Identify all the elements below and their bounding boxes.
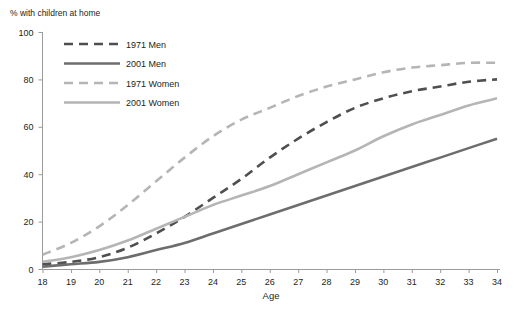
legend-label: 1971 Men bbox=[126, 40, 166, 50]
y-tick-label: 0 bbox=[28, 265, 33, 275]
x-tick-label: 26 bbox=[265, 277, 275, 287]
y-axis-title: % with children at home bbox=[10, 8, 101, 18]
x-axis-title: Age bbox=[263, 290, 280, 301]
x-tick-label: 21 bbox=[123, 277, 133, 287]
x-tick-label: 33 bbox=[464, 277, 474, 287]
y-axis-ticks: 020406080100 bbox=[18, 28, 42, 275]
x-tick-label: 24 bbox=[208, 277, 218, 287]
x-tick-label: 31 bbox=[407, 277, 417, 287]
x-tick-label: 22 bbox=[151, 277, 161, 287]
chart-legend: 1971 Men2001 Men1971 Women2001 Women bbox=[64, 40, 179, 109]
x-tick-label: 25 bbox=[236, 277, 246, 287]
x-axis-ticks: 1819202122232425262728293031323334 bbox=[37, 269, 502, 287]
series-lines bbox=[43, 63, 498, 267]
series-line bbox=[43, 98, 498, 262]
x-tick-label: 27 bbox=[293, 277, 303, 287]
x-tick-label: 29 bbox=[350, 277, 360, 287]
y-tick-label: 100 bbox=[18, 28, 33, 38]
x-tick-label: 28 bbox=[322, 277, 332, 287]
line-chart: % with children at home 020406080100 181… bbox=[0, 0, 514, 314]
legend-label: 2001 Men bbox=[126, 59, 166, 69]
x-tick-label: 18 bbox=[37, 277, 47, 287]
x-tick-label: 32 bbox=[435, 277, 445, 287]
legend-label: 2001 Women bbox=[126, 98, 179, 108]
y-tick-label: 20 bbox=[23, 217, 33, 227]
x-tick-label: 23 bbox=[180, 277, 190, 287]
y-tick-label: 80 bbox=[23, 75, 33, 85]
x-tick-label: 30 bbox=[378, 277, 388, 287]
legend-label: 1971 Women bbox=[126, 79, 179, 89]
y-tick-label: 40 bbox=[23, 170, 33, 180]
x-tick-label: 19 bbox=[66, 277, 76, 287]
x-tick-label: 20 bbox=[94, 277, 104, 287]
y-tick-label: 60 bbox=[23, 122, 33, 132]
x-tick-label: 34 bbox=[492, 277, 502, 287]
chart-container: % with children at home 020406080100 181… bbox=[0, 0, 514, 314]
